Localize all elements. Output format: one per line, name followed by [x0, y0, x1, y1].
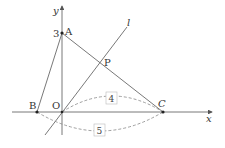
label-3: 3: [53, 28, 59, 39]
dimension-label-5: 5: [97, 126, 103, 136]
y-axis-label: y: [52, 5, 59, 16]
label-l: l: [127, 17, 130, 28]
label-B: B: [29, 100, 36, 111]
point-A: [60, 31, 63, 34]
x-axis-label: x: [206, 113, 212, 124]
point-C: [161, 110, 164, 113]
label-C: C: [158, 98, 166, 109]
point-O: [61, 111, 64, 114]
geometry-diagram: 4 5 y x 3 A B O C P l: [0, 0, 225, 148]
dimension-label-4: 4: [109, 94, 115, 104]
label-O: O: [52, 100, 60, 111]
label-A: A: [64, 26, 73, 37]
label-P: P: [104, 57, 111, 68]
line-l: [45, 27, 127, 135]
